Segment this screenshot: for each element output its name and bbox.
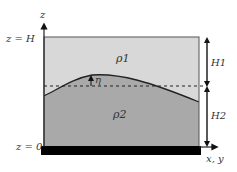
z-axis-label: z	[39, 9, 46, 20]
eta-label: η	[95, 74, 101, 85]
h1-label: H1	[210, 57, 226, 68]
rho2-label: ρ2	[112, 108, 126, 121]
xy-axis-label: x, y	[206, 153, 224, 164]
top-label: z = H	[5, 33, 35, 44]
h2-label: H2	[210, 110, 226, 121]
two-layer-fluid-diagram: η z x, y z = H z = 0 ρ1 ρ2 H1 H2	[0, 0, 237, 172]
rho1-label: ρ1	[115, 52, 129, 65]
bottom-label: z = 0	[15, 141, 43, 152]
bottom-boundary	[41, 146, 201, 155]
